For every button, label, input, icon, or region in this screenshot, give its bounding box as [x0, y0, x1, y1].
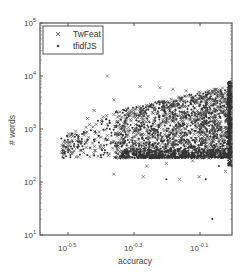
legend: TwFeat tfidfJS [43, 26, 103, 54]
svg-text:10-0.5: 10-0.5 [58, 242, 76, 253]
dot-marker-icon [57, 45, 60, 48]
svg-text:104: 104 [24, 70, 36, 81]
scatter-chart: 105 104 103 102 101 10-0.5 10-0.3 [0, 0, 249, 277]
legend-label: tfidfJS [73, 41, 97, 51]
svg-text:10-0.3: 10-0.3 [124, 242, 142, 253]
svg-text:10-0.1: 10-0.1 [190, 242, 208, 253]
svg-text:101: 101 [24, 229, 36, 240]
svg-text:103: 103 [24, 123, 36, 134]
x-axis-label: accuracy [118, 256, 153, 266]
legend-label: TwFeat [73, 29, 102, 39]
svg-text:102: 102 [24, 176, 36, 187]
y-axis-label: # words [7, 115, 17, 145]
svg-text:105: 105 [24, 17, 36, 28]
